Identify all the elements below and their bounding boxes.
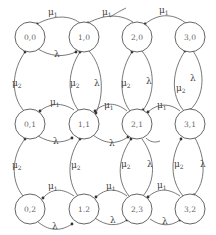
state-label: 0,1: [24, 120, 36, 129]
state-label: 0,0: [24, 33, 36, 42]
rate-label-mu1: μ1: [157, 100, 167, 111]
state-label: 2,0: [131, 33, 143, 42]
rate-label-lambda: λ: [147, 159, 153, 169]
rate-label-mu2: μ2: [70, 78, 80, 89]
edge-3-1-to-3-0-mu2: [174, 51, 185, 111]
arrowhead-icon: [71, 223, 74, 226]
rate-label-mu1: μ1: [106, 181, 116, 192]
state-label: 3,1: [184, 120, 196, 129]
rate-label-lambda: λ: [53, 136, 59, 146]
state-label: 1.2: [78, 205, 90, 214]
rate-label-mu2: μ2: [121, 159, 131, 170]
rate-label-lambda: λ: [94, 78, 100, 88]
state-label: 1,1: [78, 120, 90, 129]
state-node-3-1: 3,1: [175, 109, 205, 139]
state-node-2-3: 2,3: [122, 194, 152, 224]
state-node-2-1: 2,1: [122, 109, 152, 139]
arrowhead-icon: [94, 110, 97, 113]
rate-label-lambda: λ: [110, 215, 116, 225]
edge-1-0-to-0-0-mu1: [37, 17, 80, 24]
state-label: 3,2: [184, 205, 196, 214]
arrowhead-icon: [71, 137, 74, 140]
rate-label-lambda: λ: [190, 73, 196, 83]
arrowhead-icon: [95, 196, 98, 199]
edge-3-2-to-2-3-mu1: [148, 190, 180, 197]
state-label: 2,1: [131, 120, 143, 129]
rate-label-mu1: μ1: [104, 100, 114, 111]
arrowhead-icon: [42, 197, 45, 200]
state-node-2-0: 2,0: [122, 22, 152, 52]
rate-label-mu1: μ1: [50, 97, 60, 108]
rate-label-mu1: μ1: [48, 7, 58, 18]
state-node-1-2: 1.2: [69, 194, 99, 224]
rate-label-lambda: λ: [146, 76, 152, 86]
rate-label-mu2: μ2: [12, 78, 22, 89]
rate-label-lambda: λ: [162, 216, 168, 226]
state-node-0-2: 0,2: [15, 194, 45, 224]
rate-label-lambda: λ: [54, 49, 60, 59]
edge-2-1-right-lambda: [146, 138, 160, 142]
rate-label-mu2: μ2: [12, 160, 22, 171]
rate-label-lambda: λ: [200, 159, 206, 169]
edge-2-0-tail-mu1: [110, 8, 126, 17]
state-transition-diagram: μ1 μ1 μ1 λ μ2 μ2 λ μ2 λ μ2 λ μ1 λ μ1 λ μ…: [0, 0, 216, 235]
rate-label-mu2: μ2: [71, 160, 81, 171]
state-node-0-1: 0,1: [15, 109, 45, 139]
rate-label-mu1: μ1: [159, 5, 169, 16]
rate-label-mu1: μ1: [48, 181, 58, 192]
rate-label-mu2: μ2: [176, 83, 186, 94]
state-label: 2,3: [131, 205, 143, 214]
rate-label-mu2: μ2: [121, 78, 131, 89]
state-label: 0,2: [24, 205, 36, 214]
state-node-1-0: 1,0: [69, 22, 99, 52]
edge-3-0-to-2-0-mu1: [145, 16, 187, 24]
arrowhead-icon: [75, 51, 78, 54]
rate-label-mu1: μ1: [157, 180, 167, 191]
state-node-1-1: 1,1: [69, 109, 99, 139]
state-label: 3,0: [184, 33, 196, 42]
state-node-0-0: 0,0: [15, 22, 45, 52]
edge-1-2-to-0-2-mu1: [43, 190, 74, 198]
state-label: 1,0: [78, 33, 90, 42]
rate-label-mu1: μ1: [102, 7, 112, 18]
state-node-3-2: 3,2: [175, 194, 205, 224]
state-node-3-0: 3,0: [175, 22, 205, 52]
rate-label-mu2: μ2: [174, 159, 184, 170]
rate-label-lambda: λ: [52, 221, 58, 231]
arrowhead-icon: [180, 138, 183, 141]
rate-label-lambda: λ: [109, 138, 115, 148]
